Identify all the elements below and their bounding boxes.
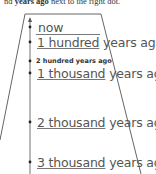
label-rest: years ago bbox=[105, 66, 156, 81]
timeline-label-2-thousand: 2 thousand years ago bbox=[37, 115, 156, 130]
label-rest: years ago bbox=[105, 155, 156, 170]
label-main: 3 thousand bbox=[37, 155, 105, 170]
label-main: 1 hundred bbox=[37, 35, 99, 50]
label-rest: years ago bbox=[105, 115, 156, 130]
timeline-label-2-hundred: 2 hundred years ago bbox=[36, 57, 112, 65]
timeline-label-3-thousand: 3 thousand years ago bbox=[37, 155, 156, 170]
timeline-dot bbox=[29, 60, 32, 63]
label-main: 1 thousand bbox=[37, 66, 105, 81]
label-rest: years ago bbox=[99, 35, 156, 50]
label-main: 2 thousand bbox=[37, 115, 105, 130]
timeline-dot bbox=[29, 26, 32, 29]
timeline-dot bbox=[29, 41, 32, 44]
label-main: now bbox=[38, 20, 63, 35]
timeline-label-now: now bbox=[38, 20, 63, 35]
timeline-dot bbox=[29, 121, 32, 124]
timeline-label-1-hundred: 1 hundred years ago bbox=[37, 35, 156, 50]
label-main: 2 hundred years ago bbox=[36, 57, 112, 65]
timeline-dot bbox=[29, 72, 32, 75]
arrow-up-icon bbox=[28, 17, 32, 22]
timeline-dot bbox=[29, 161, 32, 164]
trapezoid-frame bbox=[0, 0, 156, 174]
timeline-label-1-thousand: 1 thousand years ago bbox=[37, 66, 156, 81]
